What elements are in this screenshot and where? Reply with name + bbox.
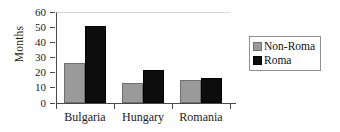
x-axis-separator (172, 103, 173, 109)
bar-chart: Months 0102030405060 BulgariaHungaryRoma… (0, 0, 340, 132)
y-axis-tick-label: 60 (24, 5, 46, 19)
legend-label-roma: Roma (264, 54, 291, 67)
y-axis-tick-label: 40 (24, 35, 46, 49)
legend-swatch-roma-icon (253, 56, 262, 65)
y-axis-tick-label: 20 (24, 65, 46, 79)
legend-item: Non-Roma (253, 39, 315, 53)
bar-bulgaria-roma (85, 26, 106, 103)
bar-bulgaria-non-roma (64, 63, 85, 103)
y-axis-tick-label: 50 (24, 20, 46, 34)
legend-item: Roma (253, 53, 315, 67)
x-axis-separator (56, 103, 57, 109)
x-axis-separator (114, 103, 115, 109)
x-axis-separator (230, 103, 231, 109)
legend-label-nonroma: Non-Roma (264, 40, 315, 53)
x-axis-line (56, 103, 236, 104)
legend-swatch-nonroma-icon (253, 42, 262, 51)
bar-hungary-roma (143, 70, 164, 103)
bar-romania-roma (201, 78, 222, 103)
legend: Non-Roma Roma (249, 36, 321, 71)
bar-romania-non-roma (180, 80, 201, 103)
y-axis-tick-label: 10 (24, 80, 46, 94)
y-axis-tick-mark (50, 57, 55, 58)
y-axis-tick-mark (50, 103, 55, 104)
y-axis-tick-mark (50, 72, 55, 73)
y-axis-tick-mark (50, 42, 55, 43)
y-axis-tick-mark (50, 12, 55, 13)
y-axis-tick-label: 0 (24, 96, 46, 110)
y-axis-tick-mark (50, 27, 55, 28)
x-axis-label-romania: Romania (164, 110, 238, 125)
y-axis-tick-mark (50, 87, 55, 88)
bar-hungary-non-roma (122, 83, 143, 103)
y-axis-tick-label: 30 (24, 50, 46, 64)
